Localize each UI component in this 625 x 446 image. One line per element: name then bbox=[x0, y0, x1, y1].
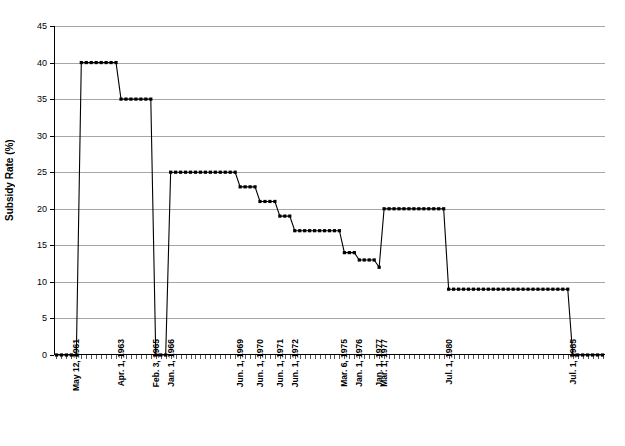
x-tick-label: May 12, 1961 bbox=[72, 339, 81, 391]
data-point bbox=[363, 258, 366, 261]
data-point bbox=[358, 258, 361, 261]
x-tick-mark bbox=[409, 355, 410, 359]
x-tick-mark bbox=[186, 355, 187, 359]
x-tick-mark bbox=[399, 355, 400, 359]
y-tick-label-30: 30 bbox=[37, 131, 47, 140]
y-tick-label-10: 10 bbox=[37, 277, 47, 286]
data-point bbox=[338, 229, 341, 232]
x-tick-mark bbox=[146, 355, 147, 359]
data-point bbox=[462, 288, 465, 291]
x-tick-mark bbox=[493, 355, 494, 359]
y-tick-label-40: 40 bbox=[37, 58, 47, 67]
gridline-20 bbox=[54, 209, 605, 210]
data-point bbox=[313, 229, 316, 232]
data-point bbox=[541, 288, 544, 291]
x-tick-mark bbox=[454, 355, 455, 359]
y-tick-label-45: 45 bbox=[37, 22, 47, 31]
x-tick-mark bbox=[245, 355, 246, 359]
x-tick-mark bbox=[285, 355, 286, 359]
x-tick-mark bbox=[141, 355, 142, 359]
data-point bbox=[561, 288, 564, 291]
data-point bbox=[512, 288, 515, 291]
x-tick-mark bbox=[200, 355, 201, 359]
data-point bbox=[348, 251, 351, 254]
x-tick-mark bbox=[583, 355, 584, 359]
gridline-15 bbox=[54, 245, 605, 246]
x-tick-mark bbox=[270, 355, 271, 359]
data-point bbox=[293, 229, 296, 232]
x-tick-mark bbox=[518, 355, 519, 359]
x-tick-label: Mar. 1, 1977 bbox=[380, 339, 389, 387]
data-point bbox=[447, 288, 450, 291]
y-tick-label-20: 20 bbox=[37, 204, 47, 213]
x-tick-mark bbox=[136, 355, 137, 359]
x-tick-mark bbox=[468, 355, 469, 359]
x-tick-mark bbox=[389, 355, 390, 359]
x-tick-mark bbox=[548, 355, 549, 359]
x-tick-mark bbox=[558, 355, 559, 359]
x-tick-mark bbox=[161, 355, 162, 359]
y-tick-label-15: 15 bbox=[37, 241, 47, 250]
x-tick-label: Jul. 1, 1980 bbox=[445, 339, 454, 384]
x-tick-mark bbox=[603, 355, 604, 359]
x-tick-label: Jul. 1, 1985 bbox=[569, 339, 578, 384]
series-line bbox=[54, 26, 605, 355]
x-tick-mark bbox=[131, 355, 132, 359]
subsidy-rate-chart: Subsidy Rate (%) 051015202530354045 May … bbox=[0, 0, 625, 446]
gridline-45 bbox=[54, 26, 605, 27]
x-tick-mark bbox=[483, 355, 484, 359]
data-point bbox=[497, 288, 500, 291]
data-point bbox=[507, 288, 510, 291]
data-point bbox=[517, 288, 520, 291]
x-tick-mark bbox=[176, 355, 177, 359]
x-tick-label: Mar. 6, 1975 bbox=[340, 339, 349, 387]
x-tick-label: Feb. 3, 1965 bbox=[152, 339, 161, 387]
x-tick-mark bbox=[533, 355, 534, 359]
data-point bbox=[308, 229, 311, 232]
data-point bbox=[258, 200, 261, 203]
x-tick-mark bbox=[598, 355, 599, 359]
data-point bbox=[521, 288, 524, 291]
y-tick-mark-0 bbox=[50, 355, 54, 356]
data-point bbox=[318, 229, 321, 232]
x-tick-mark bbox=[404, 355, 405, 359]
data-point bbox=[487, 288, 490, 291]
x-tick-mark bbox=[86, 355, 87, 359]
x-tick-mark bbox=[230, 355, 231, 359]
y-axis-line bbox=[54, 26, 55, 355]
x-tick-mark bbox=[126, 355, 127, 359]
x-tick-label: Apr. 1, 1963 bbox=[117, 339, 126, 386]
data-point bbox=[482, 288, 485, 291]
data-point bbox=[263, 200, 266, 203]
x-tick-mark bbox=[498, 355, 499, 359]
data-point bbox=[283, 214, 286, 217]
chart-title bbox=[0, 0, 625, 2]
gridline-30 bbox=[54, 136, 605, 137]
data-point bbox=[566, 288, 569, 291]
x-tick-mark bbox=[434, 355, 435, 359]
data-point bbox=[546, 288, 549, 291]
y-tick-label-25: 25 bbox=[37, 168, 47, 177]
x-tick-mark bbox=[215, 355, 216, 359]
x-tick-mark bbox=[61, 355, 62, 359]
x-tick-mark bbox=[349, 355, 350, 359]
data-point bbox=[526, 288, 529, 291]
x-tick-mark bbox=[419, 355, 420, 359]
x-tick-mark bbox=[111, 355, 112, 359]
data-point bbox=[333, 229, 336, 232]
x-tick-mark bbox=[464, 355, 465, 359]
x-tick-mark bbox=[205, 355, 206, 359]
gridline-40 bbox=[54, 63, 605, 64]
gridline-5 bbox=[54, 318, 605, 319]
x-tick-mark bbox=[300, 355, 301, 359]
x-tick-mark bbox=[439, 355, 440, 359]
data-point bbox=[373, 258, 376, 261]
data-point bbox=[298, 229, 301, 232]
x-tick-mark bbox=[101, 355, 102, 359]
data-point bbox=[492, 288, 495, 291]
x-tick-mark bbox=[528, 355, 529, 359]
data-point bbox=[502, 288, 505, 291]
x-tick-mark bbox=[538, 355, 539, 359]
x-tick-mark bbox=[330, 355, 331, 359]
x-tick-mark bbox=[81, 355, 82, 359]
